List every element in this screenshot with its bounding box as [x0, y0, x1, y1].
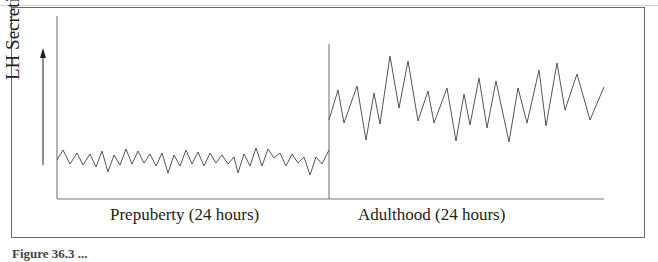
figure-caption: Figure 36.3 ... — [12, 246, 88, 262]
prepuberty-line — [57, 148, 329, 175]
up-arrow-icon — [40, 48, 46, 165]
adulthood-label: Adulthood (24 hours) — [358, 205, 505, 225]
y-axis-label: LH Secretion — [2, 0, 24, 80]
prepuberty-label: Prepuberty (24 hours) — [110, 205, 259, 225]
adulthood-line — [329, 56, 604, 142]
